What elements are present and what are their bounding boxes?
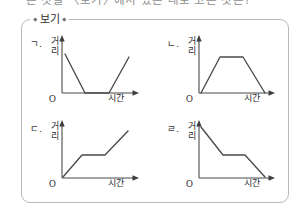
x-axis-arrow-r <box>269 175 276 180</box>
question-text: 는 것을 〈보기〉에서 있는 대로 고른 것은? <box>26 0 251 7</box>
y-axis-arrow-d <box>59 120 64 127</box>
x-axis-arrow-g <box>133 90 140 95</box>
y-axis-arrow-g <box>59 35 64 42</box>
graph-grid: ㄱ. 거 리 O 시간 ㄴ. 거 리 O 시간 <box>21 28 289 203</box>
x-axis-arrow-d <box>133 175 140 180</box>
data-line-n <box>201 57 265 93</box>
x-axis-arrow-n <box>269 90 276 95</box>
chart-svg-g <box>21 30 155 116</box>
diamond-marker-right-icon <box>62 18 66 22</box>
chart-item-n: ㄴ. 거 리 O 시간 <box>155 30 289 116</box>
bogi-caption: 보기 <box>30 12 69 27</box>
chart-svg-n <box>155 30 289 116</box>
question-text-strip: 는 것을 〈보기〉에서 있는 대로 고른 것은? <box>0 0 303 9</box>
data-line-g <box>65 54 129 93</box>
data-line-r <box>201 127 265 177</box>
bogi-caption-label: 보기 <box>40 14 60 25</box>
data-line-d <box>63 131 128 177</box>
chart-svg-r <box>155 115 289 201</box>
chart-item-d: ㄷ. 거 리 O 시간 <box>21 115 155 201</box>
chart-item-r: ㄹ. 거 리 O 시간 <box>155 115 289 201</box>
y-axis-arrow-n <box>196 35 201 42</box>
chart-svg-d <box>21 115 155 201</box>
chart-item-g: ㄱ. 거 리 O 시간 <box>21 30 155 116</box>
diamond-marker-left-icon <box>33 18 37 22</box>
y-axis-arrow-r <box>196 120 201 127</box>
